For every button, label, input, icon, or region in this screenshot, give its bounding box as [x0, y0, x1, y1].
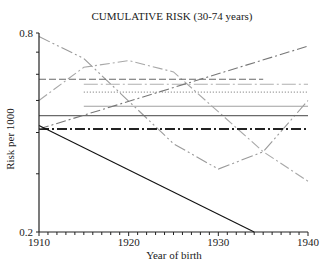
x-tick-label: 1940 [297, 236, 320, 248]
series-line-1 [39, 37, 308, 170]
y-tick-label-top: 0.8 [19, 27, 33, 39]
chart-title: CUMULATIVE RISK (30-74 years) [91, 10, 252, 23]
x-tick-label: 1920 [118, 236, 141, 248]
x-axis-label: Year of birth [146, 249, 202, 261]
x-tick-labels: 1910192019301940 [28, 236, 320, 248]
x-tick-label: 1910 [28, 236, 51, 248]
y-axis-label: Risk per 1000 [4, 108, 16, 170]
series-line-9 [39, 46, 308, 129]
x-ticks [39, 232, 308, 236]
x-tick-label: 1930 [207, 236, 230, 248]
plot-lines [39, 37, 308, 232]
chart: CUMULATIVE RISK (30-74 years) 0.8 0.2 19… [0, 0, 323, 265]
series-line-10 [39, 126, 254, 233]
axes [36, 33, 308, 236]
